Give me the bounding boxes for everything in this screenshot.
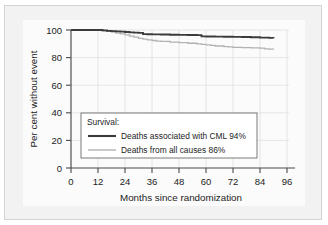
chart-legend: Survival: Deaths associated with CML 94%… — [81, 113, 257, 158]
x-tick-label: 12 — [93, 176, 104, 187]
y-tick-label: 100 — [46, 25, 62, 36]
x-axis — [71, 168, 295, 173]
legend-title: Survival: — [87, 117, 119, 127]
x-tick-label: 72 — [228, 176, 239, 187]
figure-container: 100 80 60 40 20 0 0 12 24 36 48 60 72 84 — [0, 0, 328, 225]
x-axis-title: Months since randomization — [120, 192, 242, 203]
x-tick-label: 96 — [282, 176, 293, 187]
y-tick-label: 80 — [51, 52, 62, 63]
x-tick-label: 48 — [174, 176, 185, 187]
y-tick-label: 0 — [57, 163, 62, 174]
x-tick-labels: 0 12 24 36 48 60 72 84 96 — [68, 176, 292, 187]
y-axis — [66, 30, 71, 168]
x-tick-label: 60 — [201, 176, 212, 187]
y-tick-label: 20 — [51, 135, 62, 146]
figure-panel: 100 80 60 40 20 0 0 12 24 36 48 60 72 84 — [4, 5, 322, 220]
x-tick-label: 24 — [120, 176, 131, 187]
y-tick-labels: 100 80 60 40 20 0 — [46, 25, 62, 174]
survival-curve-chart: 100 80 60 40 20 0 0 12 24 36 48 60 72 84 — [23, 20, 305, 206]
plot-canvas: 100 80 60 40 20 0 0 12 24 36 48 60 72 84 — [23, 20, 305, 206]
x-tick-label: 84 — [255, 176, 266, 187]
x-tick-label: 0 — [68, 176, 73, 187]
y-tick-label: 60 — [51, 80, 62, 91]
series-line-cml — [71, 30, 274, 38]
legend-label-all-causes: Deaths from all causes 86% — [121, 145, 226, 155]
series-line-all-causes — [71, 30, 274, 49]
x-tick-label: 36 — [147, 176, 158, 187]
y-tick-label: 40 — [51, 107, 62, 118]
legend-label-cml: Deaths associated with CML 94% — [121, 131, 246, 141]
y-axis-title: Per cent without event — [28, 50, 39, 147]
